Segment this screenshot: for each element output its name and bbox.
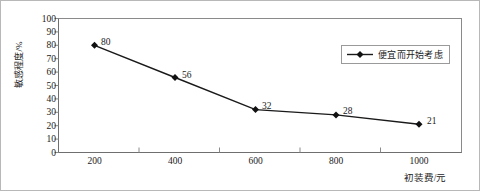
- data-point-label: 80: [101, 37, 111, 47]
- chart-figure: 敏感程度/% 100 90 80 70 60 50 40 30 20 10 0 …: [0, 0, 480, 191]
- chart-legend[interactable]: 便宜而开始考虑: [341, 45, 450, 64]
- legend-line-diamond-marker-icon: [347, 50, 373, 59]
- data-point-label: 56: [182, 70, 192, 80]
- x-tick-label: 800: [311, 156, 361, 167]
- data-point-label: 28: [343, 106, 353, 116]
- data-point-label: 21: [427, 116, 437, 126]
- data-point-label: 32: [262, 101, 272, 111]
- legend-entry-label: 便宜而开始考虑: [378, 48, 443, 61]
- x-tick-label: 600: [231, 156, 281, 167]
- x-tick-label: 400: [150, 156, 200, 167]
- x-axis-title: 初装费/元: [375, 170, 475, 184]
- x-tick-label: 200: [70, 156, 120, 167]
- x-tick-label: 1000: [394, 156, 444, 167]
- x-axis-tick-labels: 200 400 600 800 1000: [0, 0, 480, 191]
